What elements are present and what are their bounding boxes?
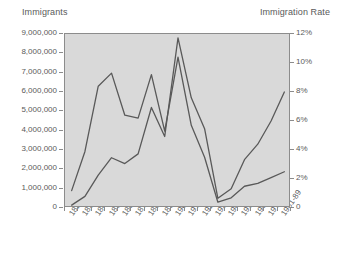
left-axis-tickmark [59, 33, 63, 34]
left-axis-tickmark [59, 110, 63, 111]
right-axis-tick: 10% [296, 58, 312, 66]
left-axis-tick: 8,000,000 [21, 48, 57, 56]
right-axis-tick: 6% [296, 116, 308, 124]
right-axis-tick: 0 [296, 203, 300, 211]
left-axis-tickmark [59, 72, 63, 73]
right-axis-tick: 8% [296, 87, 308, 95]
left-axis-tickmark [59, 52, 63, 53]
left-axis-tickmark [59, 130, 63, 131]
left-axis-tick: 1,000,000 [21, 184, 57, 192]
left-axis-tickmark [59, 91, 63, 92]
left-axis-tick: 9,000,000 [21, 29, 57, 37]
right-axis-tick: 12% [296, 29, 312, 37]
immigration-chart: Immigrants Immigration Rate 01,000,0002,… [0, 0, 338, 267]
left-axis-tick: 6,000,000 [21, 87, 57, 95]
right-axis-tick: 2% [296, 174, 308, 182]
left-axis-tick: 7,000,000 [21, 68, 57, 76]
left-axis-tick: 3,000,000 [21, 145, 57, 153]
left-axis-tick: 5,000,000 [21, 106, 57, 114]
series-immigration-rate [72, 57, 285, 202]
plot-lines [65, 34, 291, 208]
right-axis-tick: 4% [296, 145, 308, 153]
series-immigrants [72, 38, 285, 205]
left-axis-tickmark [59, 168, 63, 169]
left-axis-tickmark [59, 207, 63, 208]
left-axis-tick: 4,000,000 [21, 126, 57, 134]
left-axis-tick: 0 [53, 203, 57, 211]
left-axis-tickmark [59, 149, 63, 150]
left-axis-title: Immigrants [22, 7, 68, 17]
left-axis-tick: 2,000,000 [21, 164, 57, 172]
plot-area [64, 33, 290, 207]
left-axis-tickmark [59, 188, 63, 189]
right-axis-title: Immigration Rate [260, 7, 330, 17]
